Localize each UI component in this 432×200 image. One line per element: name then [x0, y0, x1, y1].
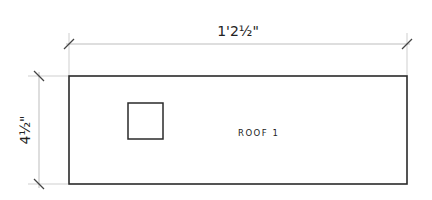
- opening-square: [128, 103, 163, 139]
- width-dimension: 1'2½": [64, 23, 412, 76]
- roof-panel-drawing: 1'2½" 4½" ROOF 1: [0, 0, 432, 200]
- width-dimension-text: 1'2½": [217, 23, 259, 39]
- height-dimension-text: 4½": [17, 116, 33, 145]
- panel-label: ROOF 1: [238, 128, 279, 138]
- height-dimension: 4½": [17, 71, 68, 189]
